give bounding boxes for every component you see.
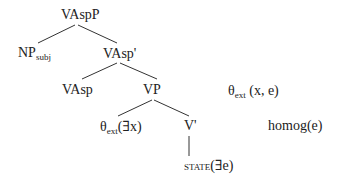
node-theta-args: (∃x) [118, 119, 142, 134]
annotation-theta-xe: θext (x, e) [228, 84, 279, 98]
tree-edges [0, 0, 337, 186]
edge-root-npsubj [38, 25, 75, 43]
node-state: state(∃e) [184, 159, 233, 173]
node-vp-label: VP [143, 82, 161, 97]
annotation-theta-args: (x, e) [246, 83, 279, 98]
node-theta-subscript: ext [107, 126, 118, 136]
node-vaspp-label: VAspP [61, 7, 100, 22]
annotation-theta-subscript: ext [235, 90, 246, 100]
node-theta-symbol: θ [100, 119, 107, 134]
annotation-theta-symbol: θ [228, 83, 235, 98]
node-v-bar: V' [184, 119, 197, 133]
node-theta-ext-x: θext(∃x) [100, 120, 142, 134]
node-np-subj: NPsubj [18, 46, 51, 60]
node-np-label: NP [18, 45, 36, 60]
node-v-bar-label: V' [184, 118, 197, 133]
edge-vaspbar-vasp [82, 63, 117, 79]
annotation-homog: homog(e) [268, 119, 322, 133]
node-state-label: state [184, 158, 210, 173]
node-state-args: (∃e) [210, 158, 233, 173]
edge-vp-theta [118, 100, 152, 116]
edge-vaspbar-vp [120, 63, 157, 79]
node-vasp-bar: VAsp' [103, 47, 136, 61]
node-vasp: VAsp [62, 83, 93, 97]
annotation-homog-label: homog(e) [268, 118, 322, 133]
node-vasp-label: VAsp [62, 82, 93, 97]
edge-root-vaspbar [78, 25, 117, 43]
syntax-tree: VAspP NPsubj VAsp' VAsp VP θext (x, e) θ… [0, 0, 337, 186]
node-np-subscript: subj [36, 52, 51, 62]
node-vaspp: VAspP [61, 8, 100, 22]
node-vp: VP [143, 83, 161, 97]
edge-vp-vbar [154, 100, 189, 116]
node-vasp-bar-label: VAsp' [103, 46, 136, 61]
